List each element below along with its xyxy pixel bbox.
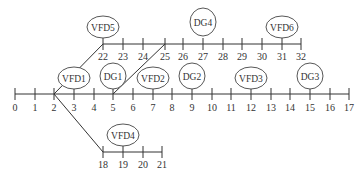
node-vfd4: VFD4 — [107, 124, 139, 146]
node-dg4: DG4 — [190, 8, 216, 36]
bus-label: 1 — [33, 102, 38, 113]
network-diagram: 0123456789101112131415161722232425262728… — [0, 0, 360, 179]
bus-label: 8 — [170, 102, 175, 113]
bus-label: 9 — [190, 102, 195, 113]
node-vfd1: VFD1 — [58, 67, 90, 89]
bus-label: 32 — [296, 51, 306, 62]
node-label: VFD6 — [270, 23, 294, 33]
node-label: VFD5 — [91, 23, 115, 33]
bus-label: 28 — [218, 51, 228, 62]
node-vfd3: VFD3 — [235, 67, 267, 89]
bus-label: 20 — [138, 159, 148, 170]
node-label: VFD2 — [141, 74, 165, 84]
node-dg3: DG3 — [297, 63, 323, 89]
bus-label: 26 — [178, 51, 188, 62]
node-vfd2: VFD2 — [137, 67, 169, 89]
bus-label: 3 — [72, 102, 77, 113]
bus-label: 6 — [131, 102, 136, 113]
node-vfd6: VFD6 — [266, 16, 298, 38]
bus-label: 29 — [237, 51, 247, 62]
bus-label: 27 — [198, 51, 208, 62]
bus-label: 13 — [266, 102, 276, 113]
bus-label: 31 — [277, 51, 287, 62]
node-label: DG1 — [104, 72, 123, 82]
bus-label: 12 — [246, 102, 256, 113]
node-label: DG3 — [301, 72, 320, 82]
bus-label: 19 — [118, 159, 128, 170]
node-label: VFD4 — [111, 131, 135, 141]
bus-label: 18 — [98, 159, 108, 170]
bus-label: 25 — [160, 51, 170, 62]
feeder-lines: 0123456789101112131415161722232425262728… — [13, 38, 355, 170]
bus-label: 16 — [325, 102, 335, 113]
bus-label: 2 — [52, 102, 57, 113]
node-dg2: DG2 — [179, 63, 205, 89]
bus-label: 11 — [226, 102, 236, 113]
node-label: DG4 — [194, 18, 213, 28]
node-label: VFD1 — [62, 74, 86, 84]
bus-label: 7 — [151, 102, 156, 113]
bus-label: 14 — [285, 102, 295, 113]
device-nodes: VFD5DG4VFD6VFD1DG1VFD2DG2VFD3DG3VFD4 — [58, 8, 323, 146]
bus-label: 5 — [111, 102, 116, 113]
node-label: VFD3 — [239, 74, 263, 84]
bus-label: 30 — [257, 51, 267, 62]
bus-label: 22 — [98, 51, 108, 62]
bus-label: 23 — [118, 51, 128, 62]
bus-label: 24 — [138, 51, 148, 62]
node-dg1: DG1 — [100, 63, 126, 89]
bus-label: 21 — [157, 159, 167, 170]
bus-label: 15 — [305, 102, 315, 113]
bus-label: 17 — [344, 102, 354, 113]
bus-label: 4 — [92, 102, 97, 113]
bus-label: 10 — [207, 102, 217, 113]
node-label: DG2 — [183, 72, 202, 82]
node-vfd5: VFD5 — [87, 16, 119, 38]
bus-label: 0 — [13, 102, 18, 113]
